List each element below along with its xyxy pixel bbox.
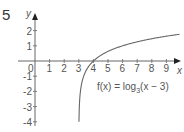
function-graph: 0123456789 21-1-2-3-4 x y f(x) = log3(x … — [0, 0, 184, 132]
y-tick-label: -2 — [23, 86, 32, 97]
y-axis-arrow-icon — [32, 13, 38, 20]
x-tick-label: 4 — [90, 63, 96, 74]
x-tick-label: 7 — [134, 63, 140, 74]
y-tick-label: -4 — [23, 117, 32, 128]
x-tick-label: 8 — [149, 63, 155, 74]
x-tick-label: 1 — [47, 63, 53, 74]
x-tick-label: 3 — [76, 63, 82, 74]
y-tick-label: 2 — [26, 26, 32, 37]
y-axis-label: y — [25, 8, 32, 19]
x-axis — [18, 58, 181, 64]
x-axis-arrow-icon — [174, 58, 181, 64]
function-label-suffix: (x − 3) — [140, 81, 169, 92]
y-tick-label: -3 — [23, 102, 32, 113]
function-curve — [79, 34, 180, 122]
function-label-prefix: f(x) = log — [97, 81, 136, 92]
x-tick-label: 5 — [105, 63, 111, 74]
y-tick-label: 1 — [26, 41, 32, 52]
y-tick-label: -1 — [23, 71, 32, 82]
x-axis-label: x — [176, 65, 183, 76]
function-label: f(x) = log3(x − 3) — [97, 81, 169, 94]
x-tick-label: 2 — [61, 63, 67, 74]
x-tick-label: 6 — [120, 63, 126, 74]
x-tick-label: 9 — [163, 63, 169, 74]
